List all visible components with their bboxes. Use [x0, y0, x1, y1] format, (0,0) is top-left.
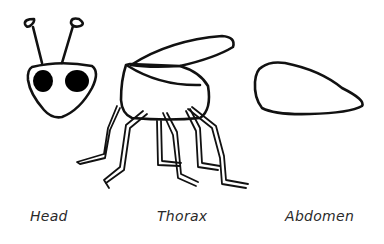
label-head: Head [30, 208, 68, 224]
head-drawing [25, 19, 96, 118]
wing-icon [131, 36, 234, 67]
left-antenna-icon [33, 27, 42, 63]
left-eye-icon [33, 70, 53, 92]
right-eye-icon [65, 70, 89, 92]
insect-diagram: Head Thorax Abdomen [0, 0, 384, 244]
right-antenna-icon [62, 26, 73, 63]
label-abdomen: Abdomen [285, 208, 354, 224]
thorax-drawing [77, 36, 248, 188]
abdomen-drawing [255, 63, 363, 115]
thorax-outline-icon [121, 64, 209, 120]
label-thorax: Thorax [157, 208, 207, 224]
abdomen-outline-icon [255, 63, 363, 115]
